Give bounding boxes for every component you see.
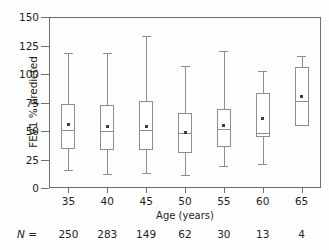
- mean-marker: [222, 124, 225, 127]
- upper-whisker-cap: [142, 36, 151, 37]
- lower-whisker: [107, 150, 108, 174]
- lower-whisker-cap: [103, 174, 112, 175]
- x-tick-mark: [185, 188, 186, 193]
- y-tick-mark: [41, 74, 49, 75]
- y-tick-mark: [41, 17, 49, 18]
- sample-size-row-label: N =: [17, 228, 37, 240]
- upper-whisker-cap: [64, 53, 73, 54]
- x-tick-mark: [224, 188, 225, 193]
- median-line: [139, 130, 153, 131]
- x-tick-label: 35: [48, 195, 88, 207]
- lower-whisker-cap: [181, 175, 190, 176]
- lower-whisker: [68, 149, 69, 170]
- y-tick-mark: [41, 103, 49, 104]
- x-tick-mark: [146, 188, 147, 193]
- x-tick-label: 55: [204, 195, 244, 207]
- lower-whisker: [146, 150, 147, 173]
- y-tick-mark: [41, 46, 49, 47]
- lower-whisker: [185, 153, 186, 176]
- lower-whisker: [263, 137, 264, 164]
- mean-marker: [184, 131, 187, 134]
- upper-whisker: [68, 53, 69, 103]
- mean-marker: [300, 95, 303, 98]
- box-iqr: [61, 104, 75, 150]
- mean-marker: [145, 125, 148, 128]
- upper-whisker: [185, 66, 186, 113]
- x-tick-label: 65: [282, 195, 322, 207]
- x-tick-label: 50: [165, 195, 205, 207]
- upper-whisker-cap: [297, 56, 306, 57]
- upper-whisker: [302, 56, 303, 67]
- x-tick-mark: [68, 188, 69, 193]
- x-tick-mark: [302, 188, 303, 193]
- median-line: [61, 130, 75, 131]
- lower-whisker-cap: [258, 164, 267, 165]
- upper-whisker: [107, 53, 108, 104]
- upper-whisker: [263, 71, 264, 94]
- y-axis-title: FEV1 % predicted: [27, 22, 39, 182]
- mean-marker: [67, 123, 70, 126]
- x-tick-mark: [263, 188, 264, 193]
- upper-whisker: [146, 36, 147, 101]
- x-tick-mark: [107, 188, 108, 193]
- x-tick-label: 60: [243, 195, 283, 207]
- y-tick-mark: [41, 160, 49, 161]
- boxplot-figure: FEV1 % predicted 0255075100125150 354045…: [0, 0, 329, 250]
- x-axis-title: Age (years): [49, 210, 321, 221]
- y-tick-mark: [41, 188, 49, 189]
- lower-whisker-cap: [219, 166, 228, 167]
- lower-whisker-cap: [142, 173, 151, 174]
- median-line: [256, 133, 270, 134]
- x-tick-label: 45: [126, 195, 166, 207]
- upper-whisker-cap: [219, 51, 228, 52]
- lower-whisker-cap: [64, 170, 73, 171]
- median-line: [295, 101, 309, 102]
- upper-whisker-cap: [258, 71, 267, 72]
- median-line: [217, 129, 231, 130]
- mean-marker: [106, 125, 109, 128]
- median-line: [100, 131, 114, 132]
- upper-whisker-cap: [103, 53, 112, 54]
- upper-whisker: [224, 51, 225, 109]
- x-tick-label: 40: [87, 195, 127, 207]
- box-iqr: [256, 93, 270, 136]
- y-tick-label: 0: [3, 182, 39, 194]
- lower-whisker: [224, 147, 225, 166]
- upper-whisker-cap: [181, 66, 190, 67]
- sample-size-value: 4: [279, 228, 325, 240]
- mean-marker: [261, 117, 264, 120]
- y-tick-mark: [41, 131, 49, 132]
